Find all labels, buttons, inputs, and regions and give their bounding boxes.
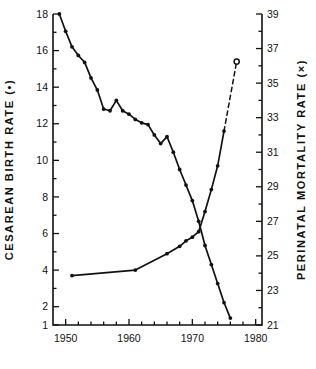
series-line-2 [224, 62, 237, 132]
data-point [209, 263, 213, 267]
x-axis-tick-label: 1960 [117, 332, 141, 344]
y-axis-tick-label: 1 [42, 319, 48, 331]
right-axis-title: PERINATAL MORTALITY RATE (×) [295, 59, 307, 280]
data-point [222, 301, 226, 305]
data-point [121, 109, 125, 113]
data-point [190, 199, 194, 203]
y-axis-tick-label: 10 [36, 154, 48, 166]
data-point [102, 107, 106, 111]
y-axis-tick-label: 16 [36, 44, 48, 56]
data-point [203, 244, 207, 248]
y2-axis-tick-label: 31 [267, 146, 279, 158]
data-point [159, 142, 163, 146]
left-axis-title: CESAREAN BIRTH RATE (•) [3, 79, 15, 261]
y2-axis-tick-label: 25 [267, 249, 279, 261]
y-axis-tick-label: 4 [42, 264, 48, 276]
y2-axis-tick-label: 33 [267, 111, 279, 123]
y-axis-tick-label: 2 [42, 300, 48, 312]
y2-axis-tick-label: 23 [267, 284, 279, 296]
data-point [178, 168, 182, 172]
y-axis-tick-label: 8 [42, 191, 48, 203]
series-line-0 [59, 14, 230, 318]
data-point [203, 210, 207, 214]
data-point [95, 88, 99, 92]
data-point [165, 252, 169, 256]
data-point [216, 282, 220, 286]
data-point [70, 274, 74, 278]
y-axis-tick-label: 18 [36, 8, 48, 20]
chart-container: 1246810121416182123252729313335373919501… [0, 0, 316, 369]
data-point [83, 60, 87, 64]
data-point [108, 109, 112, 113]
y2-axis-tick-label: 27 [267, 215, 279, 227]
y-axis-tick-label: 12 [36, 117, 48, 129]
y2-axis-tick-label: 21 [267, 319, 279, 331]
data-point [197, 230, 201, 234]
data-point [127, 112, 131, 116]
data-point-open [234, 59, 239, 64]
data-point [64, 29, 68, 33]
data-point [146, 123, 150, 127]
data-point [216, 164, 220, 168]
data-point [152, 133, 156, 137]
line-chart: 1246810121416182123252729313335373919501… [0, 0, 316, 369]
series-line-1 [72, 131, 224, 276]
y-axis-tick-label: 14 [36, 81, 48, 93]
data-point [89, 76, 93, 80]
data-point [70, 45, 74, 49]
y2-axis-tick-label: 37 [267, 42, 279, 54]
data-point [178, 244, 182, 248]
data-point [140, 121, 144, 125]
x-axis-tick-label: 1980 [244, 332, 268, 344]
data-point [57, 12, 61, 16]
y2-axis-tick-label: 29 [267, 180, 279, 192]
data-point [76, 54, 80, 58]
x-axis-tick-label: 1970 [181, 332, 205, 344]
data-point [209, 188, 213, 192]
data-point [171, 150, 175, 154]
data-point [184, 239, 188, 243]
data-point [184, 183, 188, 187]
data-point [190, 235, 194, 239]
data-point [133, 117, 137, 121]
data-point [165, 135, 169, 139]
data-point [114, 98, 118, 102]
y-axis-tick-label: 6 [42, 227, 48, 239]
y2-axis-tick-label: 35 [267, 77, 279, 89]
y2-axis-tick-label: 39 [267, 8, 279, 20]
x-axis-tick-label: 1950 [54, 332, 78, 344]
data-point [197, 219, 201, 223]
data-point [133, 268, 137, 272]
data-point [228, 316, 232, 320]
